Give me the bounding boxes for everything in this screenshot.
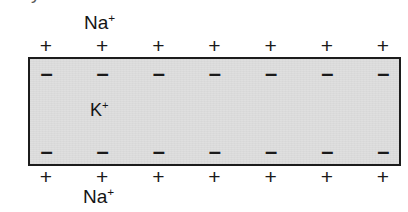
charge-symbol: –	[205, 141, 223, 163]
membrane-potential-diagram: y Na+ + + + + + + + – – – – – – – K+ – –…	[0, 0, 408, 212]
charge-symbol: +	[205, 35, 223, 56]
charge-symbol: +	[149, 166, 167, 187]
charge-symbol: +	[374, 166, 392, 187]
sodium-ion-label-top: Na+	[84, 13, 115, 32]
sodium-element-symbol-top: Na	[84, 12, 108, 33]
charge-symbol: –	[262, 141, 280, 163]
charge-row-outer-bottom: + + + + + + +	[28, 167, 401, 187]
charge-symbol: +	[205, 166, 223, 187]
charge-row-inner-bottom: – – – – – – –	[28, 142, 401, 162]
charge-symbol: –	[37, 141, 55, 163]
charge-symbol: +	[37, 35, 55, 56]
charge-symbol: –	[149, 141, 167, 163]
charge-symbol: –	[93, 63, 111, 85]
charge-symbol: –	[374, 141, 392, 163]
charge-symbol: +	[262, 35, 280, 56]
charge-symbol: –	[205, 63, 223, 85]
charge-symbol: +	[149, 35, 167, 56]
charge-row-outer-top: + + + + + + +	[28, 36, 401, 56]
charge-symbol: +	[318, 166, 336, 187]
charge-symbol: –	[374, 63, 392, 85]
charge-symbol: –	[93, 141, 111, 163]
sodium-charge-superscript-bottom: +	[107, 185, 114, 198]
clipped-text-fragment: y	[31, 0, 41, 2]
charge-symbol: –	[149, 63, 167, 85]
charge-symbol: –	[37, 63, 55, 85]
charge-symbol: +	[318, 35, 336, 56]
sodium-element-symbol-bottom: Na	[83, 186, 107, 207]
charge-symbol: +	[262, 166, 280, 187]
charge-symbol: –	[318, 63, 336, 85]
potassium-ion-label: K+	[90, 101, 109, 119]
charge-symbol: +	[93, 35, 111, 56]
charge-symbol: +	[374, 35, 392, 56]
potassium-element-symbol: K	[90, 100, 102, 120]
charge-symbol: –	[262, 63, 280, 85]
sodium-charge-superscript-top: +	[108, 11, 115, 24]
charge-row-inner-top: – – – – – – –	[28, 64, 401, 84]
charge-symbol: +	[37, 166, 55, 187]
charge-symbol: –	[318, 141, 336, 163]
sodium-ion-label-bottom: Na+	[83, 187, 114, 206]
potassium-charge-superscript: +	[102, 99, 109, 111]
